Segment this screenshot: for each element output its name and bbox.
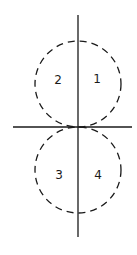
quadrant-label-1: 1: [93, 72, 101, 86]
quadrant-diagram: 1 2 3 4: [0, 0, 137, 255]
quadrant-label-4: 4: [94, 168, 102, 182]
quadrant-label-2: 2: [54, 73, 62, 87]
quadrant-label-3: 3: [55, 168, 63, 182]
